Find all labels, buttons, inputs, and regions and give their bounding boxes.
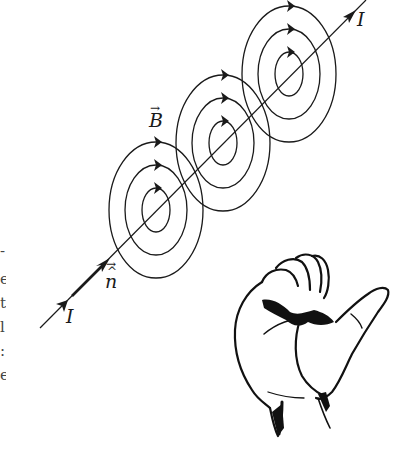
- edge-char: :: [0, 344, 5, 359]
- normal-label: → ^ n: [105, 272, 117, 291]
- left-edge-text-fragment: -: [0, 244, 6, 259]
- right-hand-icon: [235, 255, 388, 436]
- edge-char: e: [0, 368, 6, 383]
- normal-vector-shaft: [72, 264, 104, 296]
- left-edge-text-fragment: l: [0, 320, 6, 335]
- left-edge-text-fragment: e: [0, 368, 6, 383]
- left-edge-text-fragment: e: [0, 272, 6, 287]
- field-label: → B: [149, 111, 163, 130]
- current-label-bottom: I: [66, 307, 74, 326]
- current-label-top: I: [357, 10, 365, 29]
- edge-char: -: [0, 244, 5, 259]
- hat-icon: ^: [107, 266, 117, 278]
- left-edge-text-fragment: :: [0, 344, 6, 359]
- edge-char: e: [0, 272, 6, 287]
- left-edge-text-fragment: t: [0, 296, 6, 311]
- edge-char: l: [0, 320, 5, 335]
- edge-char: t: [0, 296, 6, 311]
- current-label-bottom-text: I: [66, 305, 74, 327]
- vector-arrow-icon: →: [150, 102, 160, 114]
- right-hand-rule-diagram: I → B → ^ n I - e t l : e: [0, 0, 407, 449]
- field-lines-drawing: [0, 0, 407, 449]
- current-label-top-text: I: [357, 8, 365, 30]
